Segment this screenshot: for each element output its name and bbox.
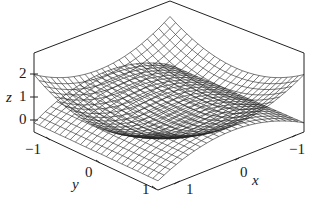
z-tick-0: 0 [19, 112, 27, 127]
y-axis-label: y [72, 177, 79, 192]
y-tick-neg1: −1 [25, 142, 41, 157]
x-axis-label: x [252, 173, 259, 188]
x-tick-0: 0 [240, 165, 248, 180]
z-axis-label: z [6, 90, 12, 105]
y-tick-0: 0 [85, 165, 93, 180]
z-tick-1: 1 [19, 89, 27, 104]
x-tick-1: 1 [186, 182, 194, 197]
x-tick-neg1: −1 [289, 142, 305, 157]
lower-surface-mesh [34, 63, 304, 181]
surface-plot [0, 0, 315, 197]
z-tick-2: 2 [19, 66, 27, 81]
y-tick-1: 1 [142, 182, 150, 197]
